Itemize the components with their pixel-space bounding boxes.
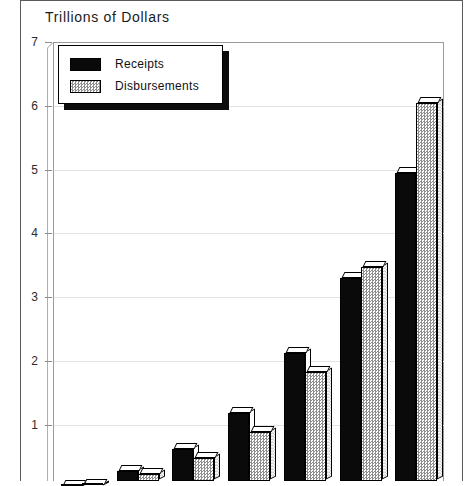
legend-swatch-receipts-icon <box>70 58 101 71</box>
y-tick-mark <box>45 297 52 298</box>
legend-swatch-disbursements-icon <box>70 80 101 93</box>
y-tick-label: 1 <box>16 418 38 432</box>
y-tick-mark <box>45 361 52 362</box>
figure-border-top <box>20 0 463 1</box>
y-tick-mark <box>45 233 52 234</box>
y-tick-label: 6 <box>16 99 38 113</box>
gridline <box>54 297 444 298</box>
bar-front-face <box>61 484 82 486</box>
legend-label-receipts: Receipts <box>115 57 164 71</box>
gridline <box>54 233 444 234</box>
bar-side-face <box>82 481 88 486</box>
y-tick-mark <box>45 425 52 426</box>
legend-item-disbursements: Disbursements <box>70 77 199 95</box>
y-tick-label: 3 <box>16 290 38 304</box>
figure-border-right <box>462 0 463 481</box>
chart-title: Trillions of Dollars <box>45 9 170 25</box>
y-tick-label: 5 <box>16 163 38 177</box>
bar-side-face <box>103 481 109 486</box>
gridline <box>54 170 444 171</box>
legend-label-disbursements: Disbursements <box>115 79 199 93</box>
gridline <box>54 361 444 362</box>
y-tick-label: 7 <box>16 35 38 49</box>
chart-legend: Receipts Disbursements <box>58 45 223 104</box>
figure-border-left <box>20 0 21 481</box>
y-tick-mark <box>45 106 52 107</box>
bar-front-face <box>82 483 103 485</box>
y-tick-mark <box>45 170 52 171</box>
gridline <box>54 425 444 426</box>
y-tick-mark <box>45 42 52 43</box>
legend-item-receipts: Receipts <box>70 55 164 73</box>
y-tick-label: 4 <box>16 226 38 240</box>
y-axis-line <box>47 48 48 481</box>
y-tick-label: 2 <box>16 354 38 368</box>
